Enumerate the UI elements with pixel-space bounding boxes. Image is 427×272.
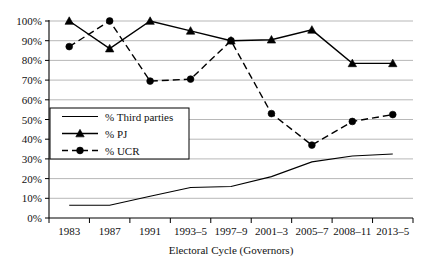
- data-point-circle-marker: [147, 78, 154, 85]
- legend-swatch-marker: [77, 147, 84, 154]
- data-point-circle-marker: [308, 142, 315, 149]
- line-chart-canvas: 0%10%20%30%40%50%60%70%80%90%100% 198319…: [0, 0, 427, 272]
- x-tick-label: 1991: [139, 225, 161, 237]
- y-tick-label: 70%: [22, 74, 42, 86]
- y-tick-label: 60%: [22, 94, 42, 106]
- data-point-circle-marker: [268, 110, 275, 117]
- x-tick-label: 2008–11: [333, 225, 371, 237]
- chart-figure: 0%10%20%30%40%50%60%70%80%90%100% 198319…: [0, 0, 427, 272]
- data-point-circle-marker: [228, 37, 235, 44]
- y-tick-label: 30%: [22, 153, 42, 165]
- x-tick-label: 1987: [99, 225, 122, 237]
- data-point-triangle-marker: [308, 26, 316, 34]
- y-tick-label: 100%: [16, 15, 42, 27]
- data-point-circle-marker: [106, 18, 113, 25]
- data-point-triangle-marker: [65, 17, 73, 25]
- data-point-circle-marker: [66, 43, 73, 50]
- data-point-circle-marker: [389, 111, 396, 118]
- y-tick-label: 40%: [22, 133, 42, 145]
- data-point-triangle-marker: [105, 44, 113, 52]
- x-tick-label: 2001–3: [255, 225, 289, 237]
- y-tick-label: 50%: [22, 114, 42, 126]
- x-tick-label: 1983: [58, 225, 81, 237]
- x-axis-title: Electoral Cycle (Governors): [169, 244, 294, 257]
- y-tick-label: 80%: [22, 54, 42, 66]
- data-point-circle-marker: [349, 118, 356, 125]
- legend-label: % UCR: [105, 145, 140, 157]
- chart-legend: % Third parties% PJ% UCR: [50, 108, 189, 159]
- y-axis-tick-labels: 0%10%20%30%40%50%60%70%80%90%100%: [16, 15, 42, 224]
- x-tick-label: 1993–5: [174, 225, 208, 237]
- x-tick-label: 1997–9: [215, 225, 249, 237]
- x-tick-label: 2013–5: [376, 225, 410, 237]
- legend-label: % PJ: [105, 128, 128, 140]
- x-axis-tick-marks: [49, 218, 413, 223]
- y-tick-label: 10%: [22, 192, 42, 204]
- y-tick-label: 90%: [22, 35, 42, 47]
- y-tick-label: 0%: [27, 212, 42, 224]
- x-tick-label: 2005–7: [295, 225, 329, 237]
- data-point-circle-marker: [187, 76, 194, 83]
- y-axis-tick-marks: [45, 21, 49, 218]
- legend-label: % Third parties: [105, 111, 173, 123]
- data-point-triangle-marker: [146, 17, 154, 25]
- series-line: [69, 154, 393, 205]
- y-tick-label: 20%: [22, 173, 42, 185]
- x-axis-tick-labels: 1983198719911993–51997–92001–32005–72008…: [58, 225, 410, 237]
